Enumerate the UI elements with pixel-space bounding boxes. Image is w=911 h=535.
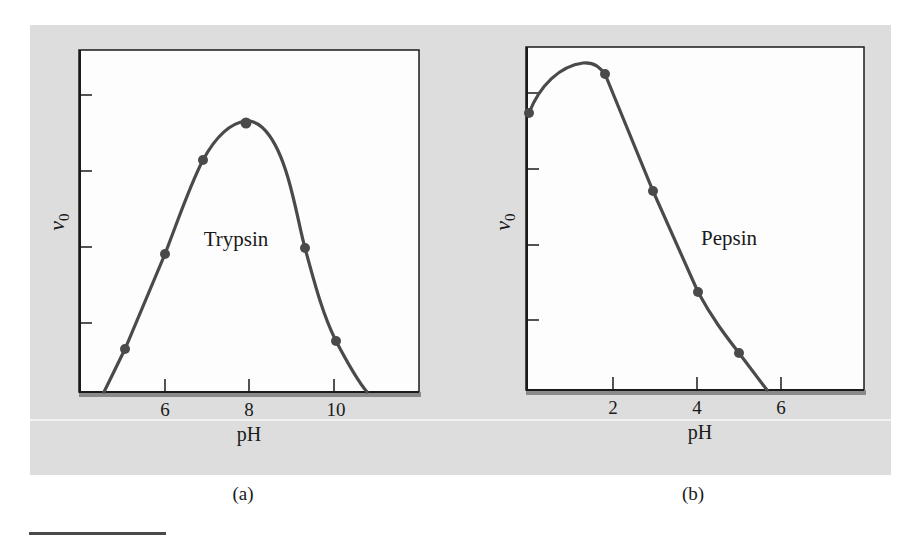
x-tick-label: 6 <box>160 399 170 420</box>
x-tick-label: 6 <box>776 397 786 418</box>
data-point <box>648 186 658 196</box>
panel-caption-a: (a) <box>232 483 253 505</box>
y-axis-label-subscript: 0 <box>56 213 72 221</box>
data-point <box>241 118 252 129</box>
y-axis-label-subscript: 0 <box>502 213 518 221</box>
data-point <box>331 336 341 346</box>
figure: Trypsin 6 8 10 pH v0 <box>0 0 911 535</box>
y-axis-label-main: v <box>44 221 69 231</box>
enzyme-label: Trypsin <box>204 227 269 251</box>
y-axis-label-main: v <box>490 221 515 231</box>
data-point <box>300 243 310 253</box>
data-point <box>160 249 170 259</box>
data-point <box>524 108 534 118</box>
panel-b-pepsin: Pepsin 2 4 6 pH v0 <box>490 47 866 444</box>
x-tick-label: 4 <box>692 397 702 418</box>
data-point <box>198 155 208 165</box>
x-axis-label: pH <box>237 423 261 446</box>
separator-line <box>30 419 891 421</box>
data-point <box>734 348 744 358</box>
x-tick-label: 2 <box>608 397 618 418</box>
x-axis-label: pH <box>688 421 712 444</box>
data-point <box>120 344 130 354</box>
enzyme-label: Pepsin <box>701 226 758 250</box>
x-tick-label: 10 <box>327 399 346 420</box>
data-point <box>693 287 703 297</box>
data-point <box>600 69 610 79</box>
plot-area <box>526 47 864 390</box>
panel-a-trypsin: Trypsin 6 8 10 pH v0 <box>44 50 421 446</box>
x-tick-label: 8 <box>244 399 254 420</box>
panel-caption-b: (b) <box>682 483 704 505</box>
